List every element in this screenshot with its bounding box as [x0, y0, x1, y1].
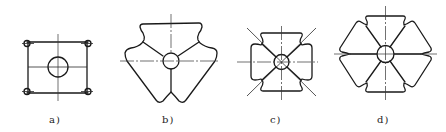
panel-b-spoke-right [178, 42, 199, 56]
panel-c-spoke-bl [262, 67, 276, 80]
panel-a-plate-outline [27, 42, 88, 93]
panel-a-corner-bosses [22, 41, 93, 95]
panel-d-spoke-bl [366, 61, 381, 82]
panel-c-spoke-br [287, 67, 301, 80]
panel-d-drawing [334, 6, 437, 101]
panel-d-spoke-br [390, 61, 405, 82]
panel-a-label: a) [49, 114, 61, 125]
panel-d-spoke-tr [390, 26, 405, 47]
panel-c-spoke-tl [262, 44, 276, 57]
panel-b-spoke-left [143, 42, 163, 56]
panel-d-label: d) [377, 114, 389, 125]
panel-d-spoke-tl [366, 26, 381, 47]
panel-b-label: b) [162, 114, 174, 125]
panel-a-drawing [22, 34, 93, 101]
panel-b-drawing [120, 14, 218, 102]
panel-c-label: c) [270, 114, 282, 125]
diagram-canvas [0, 0, 446, 132]
panel-c-drawing [237, 26, 318, 100]
panel-c-spoke-tr [287, 44, 301, 57]
